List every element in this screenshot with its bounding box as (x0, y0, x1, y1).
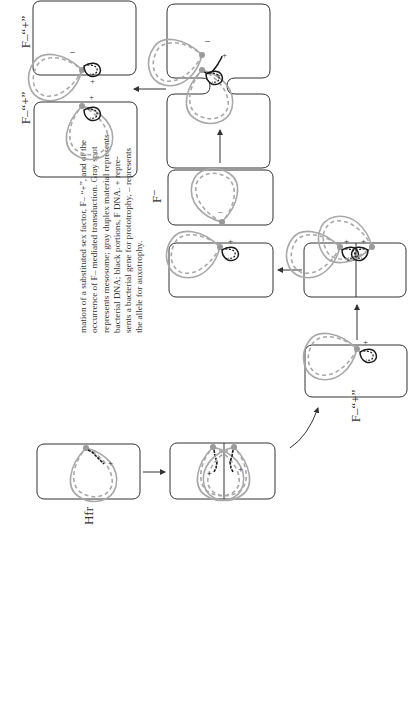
curved-arrow-icon (290, 408, 318, 448)
plus-symbol: + (363, 337, 368, 347)
label-f-minus: F⁻ (149, 189, 165, 203)
mesosome-icon (199, 52, 205, 58)
plus-symbol: + (89, 92, 94, 102)
label-hfr: Hfr (81, 507, 97, 525)
cell-f-minus-recipient: – (168, 169, 273, 225)
cell-transductant-b (34, 102, 137, 177)
diagram-canvas: – + + – + + – + (0, 0, 412, 719)
plus-symbol: + (238, 464, 243, 474)
mesosome-icon (219, 219, 225, 225)
cell-f-plus-excised: + (304, 333, 407, 397)
plus-symbol: + (228, 236, 233, 246)
minus-symbol: – (204, 35, 211, 46)
cell-transductant-a: – (29, 1, 136, 101)
mesosome-icon (231, 444, 237, 450)
label-transductant-a: F–“+” (18, 16, 34, 49)
plus-symbol: + (344, 236, 349, 246)
cell-f-plus-daughter: + (167, 231, 273, 297)
cell-conjugation: – + + (149, 4, 270, 168)
minus-symbol: – (217, 206, 223, 216)
cell-f-plus-dividing: + + (287, 216, 406, 297)
plus-symbol: + (222, 50, 227, 60)
plus-symbol: + (216, 70, 221, 80)
mesosome-icon (369, 244, 375, 250)
cell-hfr: + (37, 444, 140, 501)
mesosome-icon (210, 444, 216, 450)
label-f-plus-excised: F–“+” (348, 390, 364, 423)
plus-symbol: + (361, 236, 366, 246)
plus-symbol: + (108, 458, 113, 468)
mesosome-icon (354, 346, 360, 352)
mesosome-icon (79, 103, 85, 109)
label-transductant-b: F–“+” (18, 92, 34, 125)
minus-symbol: – (69, 46, 76, 57)
cell-hfr-dividing: + + (170, 443, 275, 500)
plus-symbol: + (90, 76, 95, 86)
plus-symbol: + (207, 468, 212, 478)
